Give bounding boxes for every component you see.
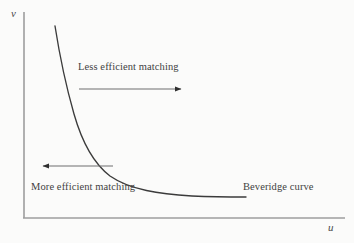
beveridge-curve xyxy=(55,26,246,197)
less-efficient-matching-label: Less efficient matching xyxy=(78,62,179,73)
beveridge-curve-figure: v u Less efficient matching More efficie… xyxy=(0,0,354,243)
beveridge-curve-label: Beveridge curve xyxy=(243,182,314,193)
diagram-canvas xyxy=(0,0,354,243)
more-efficient-matching-label: More efficient matching xyxy=(31,182,135,193)
x-axis-label: u xyxy=(328,222,334,233)
y-axis-label: v xyxy=(11,8,16,19)
